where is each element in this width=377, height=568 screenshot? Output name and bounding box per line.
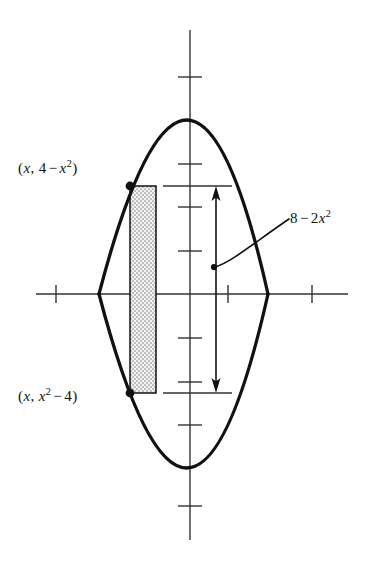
curve-lower-parabola	[99, 294, 268, 468]
label-upper-op: −	[47, 160, 60, 176]
axes-group	[36, 30, 348, 540]
label-height-mult: 2	[311, 210, 319, 226]
label-lower-close: )	[72, 388, 77, 404]
label-upper-close: )	[72, 160, 77, 176]
label-lower-value: 4	[64, 388, 72, 404]
label-lower-op: −	[51, 388, 64, 404]
label-height-annotation: 8−2x2	[290, 210, 331, 227]
figure-canvas: (x, 4−x2) (x, x2−4) 8−2x2	[0, 0, 377, 568]
label-lower-sq-base: x	[39, 388, 46, 404]
label-height-sq-exp: 2	[326, 208, 332, 219]
label-upper-sq-base: x	[60, 160, 67, 176]
diagram-svg	[0, 0, 377, 568]
label-upper-point: (x, 4−x2)	[18, 160, 78, 177]
label-lower-comma: ,	[30, 388, 38, 404]
representative-rectangle	[130, 186, 156, 393]
label-height-op: −	[298, 210, 311, 226]
point-lower-marker	[126, 389, 135, 398]
label-lower-point: (x, x2−4)	[18, 388, 78, 405]
leader-anchor-dot	[211, 264, 217, 270]
label-height-sq-base: x	[319, 210, 326, 226]
label-height-coef: 8	[290, 210, 298, 226]
height-measure-arrow	[212, 186, 221, 393]
label-upper-comma: ,	[30, 160, 38, 176]
label-upper-value: 4	[39, 160, 47, 176]
measure-guides	[163, 186, 232, 393]
point-upper-marker	[126, 182, 135, 191]
